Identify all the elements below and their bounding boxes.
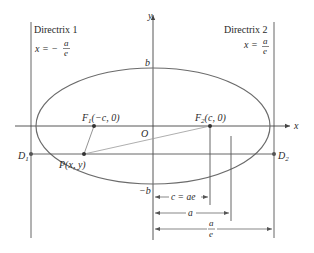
directrix-1-eq-num: a [64, 38, 69, 48]
focus-2-label: F2(c, 0) [194, 112, 226, 125]
d1-point [29, 152, 33, 156]
origin-label: O [141, 128, 148, 139]
d1-label: D1 [17, 150, 29, 163]
focus-2-point [208, 124, 212, 128]
directrix-1-title: Directrix 1 [34, 24, 78, 35]
dimension-a-label: a [188, 208, 193, 218]
focus-1-point [92, 124, 96, 128]
focus-1-label: F1(−c, 0) [81, 112, 120, 125]
point-p-label: P(x, y) [58, 159, 86, 171]
x-axis-label: x [293, 120, 299, 131]
directrix-1-eq-lhs: x = − [34, 43, 58, 54]
directrix-1-eq-den: e [64, 48, 68, 58]
ellipse-diagram: Directrix 1 x = − a e Directrix 2 x = a … [0, 0, 314, 253]
directrix-2-eq-num: a [263, 36, 268, 46]
dimension-a-over-e-den: e [209, 229, 213, 239]
directrix-2-title: Directrix 2 [224, 24, 268, 35]
minus-b-label: −b [139, 185, 151, 196]
d2-label: D2 [277, 150, 289, 163]
directrix-2-eq-lhs: x = [243, 39, 258, 50]
y-axis-label: y [147, 10, 153, 21]
pf1-segment [84, 126, 94, 154]
d2-point [272, 152, 276, 156]
dimension-c-ae-label: c = ae [171, 192, 195, 202]
point-p [82, 152, 86, 156]
directrix-2-eq-den: e [263, 46, 267, 56]
dimension-a-over-e-num: a [209, 218, 214, 228]
b-label: b [145, 57, 150, 68]
